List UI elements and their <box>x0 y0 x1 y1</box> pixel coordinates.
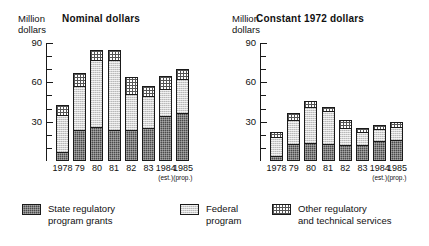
figure-stacked-bar-charts: Million dollars Nominal dollars 306090 1… <box>0 0 429 246</box>
x-tick-label-82: 82 <box>340 163 350 173</box>
bar-segment-state <box>373 141 386 161</box>
bar-segment-state <box>142 128 155 161</box>
y-tick-label-90: 90 <box>31 38 42 48</box>
x-tick-label-1985: 1985 <box>173 163 193 173</box>
y-axis-caption-nominal: Million dollars <box>18 14 46 35</box>
y-tick-label-30: 30 <box>31 117 42 127</box>
x-axis-labels-constant: 197879808182831984(est.)1985(prop.) <box>266 163 412 193</box>
legend-swatch-federal <box>180 204 199 215</box>
plot-area-constant: 306090 <box>260 43 406 161</box>
bar-segment-federal <box>56 115 69 153</box>
legend-label-other: Other regulatory and technical services <box>298 203 391 226</box>
bar-segment-federal <box>159 89 172 118</box>
bar-segment-state <box>176 113 189 162</box>
x-tick-label-80: 80 <box>306 163 316 173</box>
bar-segment-state <box>108 130 121 161</box>
legend-item-other: Other regulatory and technical services <box>272 203 391 226</box>
bar-constant-79 <box>287 113 300 161</box>
bar-segment-state <box>90 127 103 161</box>
bar-nominal-80 <box>90 50 103 161</box>
plot-area-nominal: 306090 <box>46 43 192 161</box>
chart-panel-nominal: Million dollars Nominal dollars 306090 1… <box>0 0 215 200</box>
legend-swatch-state <box>22 204 41 215</box>
legend-item-state: State regulatory program grants <box>22 203 115 226</box>
x-axis-labels-nominal: 197879808182831984(est.)1985(prop.) <box>52 163 198 193</box>
bar-segment-federal <box>339 128 352 146</box>
x-tick-note-1985: (prop.) <box>173 174 192 182</box>
bar-segment-federal <box>142 96 155 129</box>
bar-segment-state <box>287 144 300 161</box>
bar-group-nominal <box>52 43 192 161</box>
bar-segment-federal <box>73 86 86 131</box>
bar-segment-federal <box>176 79 189 113</box>
legend-label-state: State regulatory program grants <box>48 203 115 226</box>
chart-legend: State regulatory program grants Federal … <box>0 203 429 237</box>
bar-segment-federal <box>304 107 317 144</box>
bar-constant-81 <box>322 107 335 161</box>
bar-segment-state <box>356 145 369 161</box>
x-tick-label-81: 81 <box>109 163 119 173</box>
y-tick-label-90: 90 <box>245 38 256 48</box>
bar-constant-80 <box>304 101 317 161</box>
legend-swatch-other <box>272 204 291 215</box>
bar-nominal-79 <box>73 73 86 161</box>
x-tick-label-83: 83 <box>143 163 153 173</box>
y-tick-label-60: 60 <box>245 78 256 88</box>
bar-segment-state <box>390 140 403 161</box>
x-tick-label-82: 82 <box>126 163 136 173</box>
bar-segment-federal <box>125 94 138 131</box>
y-tick-label-30: 30 <box>245 117 256 127</box>
y-axis-line <box>260 43 261 161</box>
bar-segment-federal <box>287 120 300 145</box>
bar-segment-federal <box>356 132 369 146</box>
y-axis-line <box>46 43 47 161</box>
bar-segment-federal <box>322 111 335 145</box>
x-tick-note-1985: (prop.) <box>387 174 406 182</box>
x-tick-label-81: 81 <box>323 163 333 173</box>
bar-nominal-1984 <box>159 76 172 161</box>
bar-segment-federal <box>390 127 403 141</box>
bar-segment-state <box>159 116 172 161</box>
x-tick-label-1978: 1978 <box>266 163 286 173</box>
x-tick-label-83: 83 <box>357 163 367 173</box>
legend-item-federal: Federal program <box>180 203 241 226</box>
x-tick-label-79: 79 <box>75 163 85 173</box>
bar-segment-state <box>73 130 86 161</box>
bar-nominal-1985 <box>176 69 189 161</box>
x-tick-label-79: 79 <box>289 163 299 173</box>
bar-constant-1985 <box>390 122 403 161</box>
bar-constant-82 <box>339 120 352 161</box>
bar-segment-federal <box>270 137 283 157</box>
chart-title-constant: Constant 1972 dollars <box>256 13 364 24</box>
chart-title-nominal: Nominal dollars <box>62 13 140 24</box>
x-tick-label-1985: 1985 <box>387 163 407 173</box>
chart-panel-constant: Million dollars Constant 1972 dollars 30… <box>214 0 429 200</box>
bar-nominal-82 <box>125 77 138 162</box>
legend-label-federal: Federal program <box>206 203 241 226</box>
x-tick-note-1984: (est.) <box>158 174 173 182</box>
bar-segment-state <box>322 144 335 161</box>
bar-constant-1978 <box>270 132 283 161</box>
bar-segment-state <box>56 152 69 161</box>
bar-constant-83 <box>356 128 369 161</box>
bar-group-constant <box>266 43 406 161</box>
x-tick-label-80: 80 <box>92 163 102 173</box>
bar-segment-state <box>304 143 317 161</box>
bar-segment-other <box>125 77 138 95</box>
bar-segment-federal <box>108 60 121 131</box>
bar-nominal-1978 <box>56 105 69 161</box>
bar-nominal-83 <box>142 86 155 161</box>
bar-nominal-81 <box>108 50 121 161</box>
bar-constant-1984 <box>373 125 386 161</box>
bar-segment-state <box>125 130 138 161</box>
y-tick-label-60: 60 <box>31 78 42 88</box>
bar-segment-state <box>339 145 352 161</box>
x-tick-label-1978: 1978 <box>52 163 72 173</box>
bar-segment-state <box>270 156 283 161</box>
bar-segment-other <box>73 73 86 87</box>
bar-segment-federal <box>90 60 103 128</box>
x-tick-note-1984: (est.) <box>372 174 387 182</box>
